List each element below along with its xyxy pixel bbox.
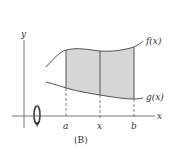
g-label: g(x): [146, 92, 164, 102]
y-axis-label: y: [20, 29, 27, 39]
tick-label-a: a: [63, 121, 68, 131]
figure-caption: (B): [74, 135, 88, 145]
region-between-curves-diagram: y x f(x) g(x) a x b (B): [0, 0, 180, 164]
tick-label-x: x: [97, 121, 102, 131]
x-axis-label: x: [157, 111, 162, 121]
rotation-arrow-icon: [34, 106, 40, 127]
tick-label-b: b: [131, 121, 137, 131]
f-label: f(x): [145, 36, 162, 46]
